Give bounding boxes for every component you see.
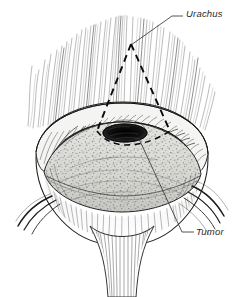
- bladder-tumor-illustration: Urachus Tumor: [0, 0, 244, 297]
- illustration-canvas: [0, 0, 244, 297]
- label-tumor: Tumor: [196, 226, 224, 237]
- label-urachus: Urachus: [186, 8, 223, 19]
